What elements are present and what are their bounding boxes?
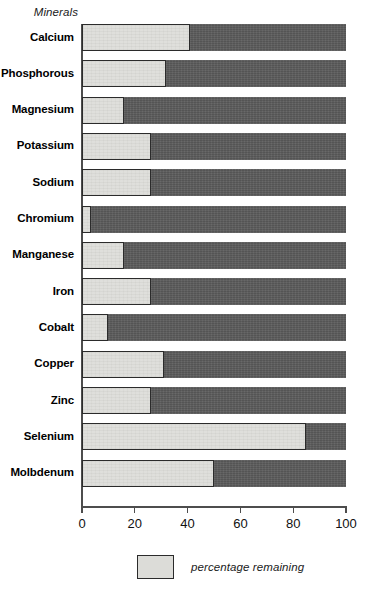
legend-label-percentage-remaining: percentage remaining: [191, 561, 304, 573]
bar-row: Cobalt: [82, 314, 346, 341]
bar-row: Molbdenum: [82, 460, 346, 487]
bar-remaining-segment: [82, 387, 151, 414]
bar-remaining-segment: [82, 351, 164, 378]
bar-depleted-segment: [82, 314, 346, 341]
x-axis-line: [82, 506, 346, 508]
category-label: Potassium: [0, 139, 74, 151]
bar-row: Selenium: [82, 423, 346, 450]
mineral-depletion-chart: Minerals CalciumPhosphorousMagnesiumPota…: [0, 0, 372, 597]
bar-row: Chromium: [82, 206, 346, 233]
category-label: Copper: [0, 357, 74, 369]
y-axis-title: Minerals: [0, 6, 78, 18]
bar-row: Magnesium: [82, 97, 346, 124]
bar-row: Copper: [82, 351, 346, 378]
bar-row: Potassium: [82, 133, 346, 160]
bar-row: Sodium: [82, 169, 346, 196]
bar-remaining-segment: [82, 314, 108, 341]
x-axis-tick-label: 60: [218, 516, 262, 531]
x-axis-tick: [187, 506, 188, 513]
category-label: Molbdenum: [0, 466, 74, 478]
bar-row: Phosphorous: [82, 60, 346, 87]
category-label: Zinc: [0, 394, 74, 406]
category-label: Cobalt: [0, 321, 74, 333]
category-label: Magnesium: [0, 103, 74, 115]
category-label: Chromium: [0, 212, 74, 224]
legend-swatch-percentage-remaining: [137, 555, 174, 579]
chart-legend: percentage remaining: [137, 555, 304, 579]
bar-remaining-segment: [82, 242, 124, 269]
bar-row: Zinc: [82, 387, 346, 414]
bar-remaining-segment: [82, 169, 151, 196]
x-axis-tick: [81, 506, 82, 513]
bar-remaining-segment: [82, 423, 306, 450]
bar-row: Iron: [82, 278, 346, 305]
category-label: Iron: [0, 285, 74, 297]
x-axis-tick: [240, 506, 241, 513]
bar-remaining-segment: [82, 60, 166, 87]
bar-remaining-segment: [82, 460, 214, 487]
x-axis-tick: [134, 506, 135, 513]
bar-row: Manganese: [82, 242, 346, 269]
x-axis-tick-label: 80: [271, 516, 315, 531]
x-axis-tick-label: 20: [113, 516, 157, 531]
x-axis-tick: [345, 506, 346, 513]
x-axis-tick-label: 100: [324, 516, 368, 531]
bar-remaining-segment: [82, 206, 91, 233]
x-axis-tick: [293, 506, 294, 513]
category-label: Phosphorous: [0, 67, 74, 79]
category-label: Calcium: [0, 31, 74, 43]
plot-area: CalciumPhosphorousMagnesiumPotassiumSodi…: [82, 24, 346, 496]
bar-remaining-segment: [82, 97, 124, 124]
category-label: Selenium: [0, 430, 74, 442]
bar-remaining-segment: [82, 278, 151, 305]
x-axis-tick-label: 0: [60, 516, 104, 531]
x-axis-tick-label: 40: [166, 516, 210, 531]
category-label: Sodium: [0, 176, 74, 188]
bar-depleted-segment: [82, 206, 346, 233]
bar-remaining-segment: [82, 24, 190, 51]
bar-row: Calcium: [82, 24, 346, 51]
category-label: Manganese: [0, 248, 74, 260]
bar-remaining-segment: [82, 133, 151, 160]
